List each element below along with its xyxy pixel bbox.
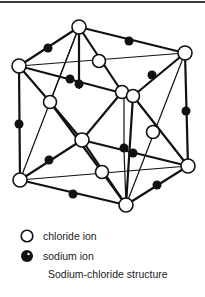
sodium-chloride-lattice: [0, 0, 205, 230]
sodium-ion-icon: [20, 249, 34, 263]
figure-caption: Sodium-chloride structure: [48, 268, 168, 280]
legend-label-chloride: chloride ion: [43, 230, 97, 242]
legend-chloride: chloride ion: [20, 229, 97, 243]
legend-label-sodium: sodium ion: [43, 250, 94, 262]
chloride-ion-icon: [20, 229, 34, 243]
legend-sodium: sodium ion: [20, 249, 94, 263]
